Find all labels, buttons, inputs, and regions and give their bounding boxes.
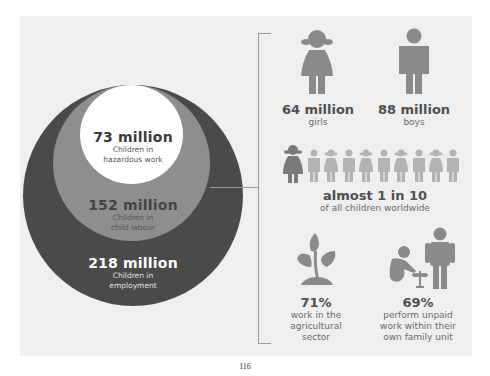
child-labour-label-2: child labour [53, 223, 213, 233]
girls-stat: 64 million girls [276, 102, 360, 128]
hazardous-work-text: 73 million Children in hazardous work [53, 129, 213, 165]
employment-label-1: Children in [53, 271, 213, 281]
connector-line [210, 187, 258, 188]
boy-icon [398, 28, 430, 96]
hazardous-work-value: 73 million [53, 129, 213, 145]
agriculture-line-2: agricultural [276, 321, 356, 332]
employment-label-2: employment [53, 281, 213, 291]
ratio-value: almost 1 in 10 [280, 188, 470, 203]
girls-label: girls [276, 117, 360, 128]
girl-icon [297, 28, 337, 96]
agriculture-stat: 71% work in the agricultural sector [276, 295, 356, 343]
bracket-top-tick [258, 33, 271, 34]
one-in-ten-icon-row [282, 144, 464, 184]
ratio-label: of all children worldwide [280, 203, 470, 214]
hazardous-work-label-1: Children in [53, 145, 213, 155]
family-stat: 69% perform unpaid work within their own… [366, 295, 470, 343]
agriculture-line-3: sector [276, 332, 356, 343]
agriculture-value: 71% [276, 295, 356, 310]
employment-text: 218 million Children in employment [53, 255, 213, 291]
child-labour-text: 152 million Children in child labour [53, 197, 213, 233]
family-line-1: perform unpaid [366, 310, 470, 321]
family-line-2: work within their [366, 321, 470, 332]
agriculture-line-1: work in the [276, 310, 356, 321]
boys-value: 88 million [372, 102, 456, 117]
plant-icon [295, 231, 339, 287]
page-number: 116 [0, 362, 490, 371]
boys-stat: 88 million boys [372, 102, 456, 128]
family-value: 69% [366, 295, 470, 310]
girl-dark-icon [283, 145, 303, 183]
employment-value: 218 million [53, 255, 213, 271]
hazardous-work-label-2: hazardous work [53, 155, 213, 165]
child-and-adult-icon [386, 227, 458, 291]
bracket-line [258, 33, 259, 343]
bracket-bottom-tick [258, 343, 271, 344]
family-line-3: own family unit [366, 332, 470, 343]
ratio-stat: almost 1 in 10 of all children worldwide [280, 188, 470, 214]
boys-label: boys [372, 117, 456, 128]
girls-value: 64 million [276, 102, 360, 117]
child-labour-label-1: Children in [53, 213, 213, 223]
child-labour-value: 152 million [53, 197, 213, 213]
